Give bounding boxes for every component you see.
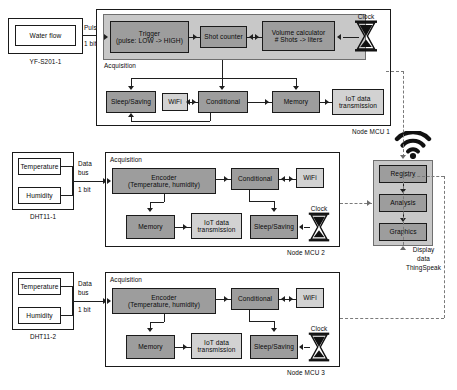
line-encoder2-elbow bbox=[150, 202, 164, 203]
node-mcu-3-block-conditional: Conditional bbox=[231, 288, 279, 310]
line-acq1-drop bbox=[222, 60, 223, 78]
arrow-bus1-to-sleep bbox=[128, 86, 134, 90]
line-encoder2-drop bbox=[164, 194, 165, 202]
dashed-node3-up bbox=[444, 176, 445, 318]
node-mcu-2-block-wifi: WiFi bbox=[296, 168, 324, 188]
arrow-bus2-into-encoder bbox=[107, 178, 111, 184]
arrow-memory-to-iot-3 bbox=[183, 344, 187, 350]
node-mcu-1-block-volume-calculator: Volume calculator # Shots -> liters bbox=[262, 21, 335, 51]
trigger-line-1: Trigger bbox=[139, 30, 160, 37]
node-mcu-2-block-iot-transmission: IoT data transmission bbox=[191, 213, 242, 239]
memory-label: Memory bbox=[138, 223, 162, 230]
wifi-label: WiFi bbox=[303, 294, 317, 301]
bus-node1-horizontal bbox=[131, 78, 296, 79]
bus-label-1bit-2: 1 bit bbox=[78, 186, 91, 193]
sensor-label-dht11-2: DHT11-2 bbox=[12, 333, 74, 340]
line-cond3-elbow bbox=[249, 321, 274, 322]
sensor-input-label: Water flow bbox=[30, 32, 62, 39]
node-mcu-2-label: Node MCU 2 bbox=[287, 249, 325, 256]
line-cond1-fb-down bbox=[210, 113, 211, 121]
arrow-bus3-into-encoder bbox=[107, 298, 111, 304]
arrow-cond2-to-sleep bbox=[271, 208, 277, 212]
arrow-wifi-to-conditional-2 bbox=[281, 176, 285, 182]
node-mcu-1-label: Node MCU 1 bbox=[352, 128, 390, 135]
arrow-cond3-to-sleep bbox=[271, 328, 277, 332]
iot-line-2: transmission bbox=[197, 226, 235, 233]
node-mcu-3-block-wifi: WiFi bbox=[296, 288, 324, 308]
shot-counter-label: Shot counter bbox=[204, 33, 243, 40]
sensor-label-yf-s201-1: YF-S201-1 bbox=[8, 58, 83, 65]
sleep-saving-label: Sleep/Saving bbox=[254, 343, 294, 350]
volume-calc-line-1: Volume calculator bbox=[272, 29, 326, 36]
arrow-conditional-to-memory-1 bbox=[265, 99, 269, 105]
dashed-node1-down bbox=[403, 71, 404, 157]
arrow-wifi-to-conditional-1 bbox=[192, 99, 196, 105]
iot-line-2: transmission bbox=[339, 102, 377, 109]
arrow-cond1-fb-to-sleep bbox=[128, 113, 134, 117]
node-mcu-1-block-trigger: Trigger (pulse: LOW -> HIGH) bbox=[110, 21, 189, 53]
node-mcu-2-block-encoder: Encoder (Temperature, humidity) bbox=[112, 168, 216, 194]
arrow-encoder-to-conditional-3 bbox=[224, 296, 228, 302]
cloud-caption-line3: ThingSpeak bbox=[390, 264, 457, 271]
dashed-node3-out bbox=[340, 318, 444, 319]
node-mcu-1-block-sleep-saving: Sleep/Saving bbox=[106, 91, 156, 113]
iot-line-1: IoT data bbox=[204, 219, 229, 226]
line-cond2-drop bbox=[249, 190, 250, 201]
node-mcu-3-label: Node MCU 3 bbox=[287, 369, 325, 376]
node-mcu-2-block-sleep-saving: Sleep/Saving bbox=[250, 215, 298, 239]
bus-label-bus-3: bus bbox=[78, 289, 89, 296]
node-mcu-1-clock-label: Clock bbox=[348, 13, 384, 20]
node-mcu-1-block-conditional: Conditional bbox=[198, 91, 248, 113]
node-mcu-2-block-memory: Memory bbox=[126, 215, 175, 239]
node-mcu-2-clock-label: Clock bbox=[303, 205, 335, 212]
arrow-conditional-to-wifi-2 bbox=[289, 176, 293, 182]
sensor-input-label: Humidity bbox=[26, 192, 52, 199]
arrow-conditional-to-wifi-1 bbox=[186, 99, 190, 105]
sleep-saving-label: Sleep/Saving bbox=[111, 98, 151, 105]
conditional-label: Conditional bbox=[206, 98, 240, 105]
dashed-node3-into-cloud bbox=[403, 176, 404, 250]
sensor-input-temperature-1: Temperature bbox=[18, 158, 61, 175]
diagram-canvas: Water flow YF-S201-1 Pulse 1 bit Acquisi… bbox=[0, 0, 457, 390]
line-hum1-join bbox=[61, 195, 72, 196]
dashed-node3-top bbox=[403, 176, 444, 177]
arrow-conditional-to-wifi-3 bbox=[289, 296, 293, 302]
iot-line-1: IoT data bbox=[204, 339, 229, 346]
sensor-label-dht11-1: DHT11-1 bbox=[12, 213, 74, 220]
bus-label-data-3: Data bbox=[78, 280, 92, 287]
arrow-wifi-to-conditional-3 bbox=[281, 296, 285, 302]
line-encoder3-drop bbox=[164, 314, 165, 322]
line-encoder3-elbow bbox=[150, 322, 164, 323]
hourglass-icon-1 bbox=[352, 20, 380, 52]
arrow-node1-into-cloud bbox=[400, 155, 406, 159]
line-clock3-to-sleep bbox=[304, 347, 310, 348]
node-mcu-1-block-memory: Memory bbox=[272, 91, 320, 113]
encoder-line-2: (Temperature, humidity) bbox=[128, 301, 200, 308]
line-clock2-to-sleep bbox=[304, 227, 310, 228]
arrow-bus1-to-memory bbox=[293, 86, 299, 90]
bus-label-1bit-3: 1 bit bbox=[78, 306, 91, 313]
sensor-input-temperature-2: Temperature bbox=[18, 278, 61, 295]
dashed-node1-out bbox=[386, 71, 404, 72]
arrow-memory-to-iot-1 bbox=[325, 99, 329, 105]
node-mcu-3-acquisition-label: Acquisition bbox=[110, 276, 142, 283]
bus-label-1bit: 1 bit bbox=[84, 40, 97, 47]
sensor-input-humidity-2: Humidity bbox=[18, 307, 61, 324]
arrow-shotcounter-to-volume bbox=[255, 34, 259, 40]
arrow-trigger-to-shotcounter bbox=[193, 34, 197, 40]
node-mcu-3-block-iot-transmission: IoT data transmission bbox=[191, 333, 242, 359]
arrow-bus1-to-conditional bbox=[219, 86, 225, 90]
memory-label: Memory bbox=[284, 98, 308, 105]
node-mcu-1-block-wifi: WiFi bbox=[162, 93, 188, 111]
sensor-input-label: Humidity bbox=[26, 312, 52, 319]
volume-calc-line-2: # Shots -> liters bbox=[275, 36, 323, 43]
node-mcu-1-block-shot-counter: Shot counter bbox=[200, 26, 247, 48]
node-mcu-3-block-sleep-saving: Sleep/Saving bbox=[250, 335, 298, 359]
trigger-line-2: (pulse: LOW -> HIGH) bbox=[116, 37, 183, 44]
arrow-encoder3-to-memory bbox=[147, 328, 153, 332]
arrow-volume-to-shotcounter bbox=[249, 34, 253, 40]
line-cond2-elbow bbox=[249, 201, 274, 202]
bus-label-bus-2: bus bbox=[78, 169, 89, 176]
sleep-saving-label: Sleep/Saving bbox=[254, 223, 294, 230]
arrow-encoder-to-conditional-2 bbox=[224, 176, 228, 182]
